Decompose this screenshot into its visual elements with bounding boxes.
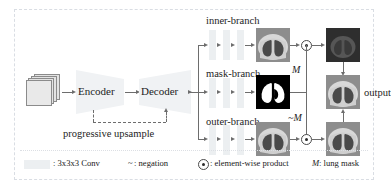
upsample-dash-left: [93, 110, 94, 122]
product-top-out-line: [312, 45, 321, 46]
upsample-dash-bottom: [93, 122, 166, 123]
outer-bus-head: [204, 137, 208, 141]
inner-arrow-3: [251, 43, 255, 47]
product-bottom-out-head: [321, 137, 325, 141]
inner-bus-head: [204, 43, 208, 47]
outer-arrow-2: [231, 137, 235, 141]
arrow-encoder-to-decoder-line: [125, 92, 136, 93]
progressive-upsample-label: progressive upsample: [63, 129, 154, 140]
conv-block-swatch: [24, 160, 50, 169]
input-volume-stack: [26, 74, 62, 108]
upsample-arrow-head: [164, 108, 168, 112]
outer-arrow-3: [251, 137, 255, 141]
inner-branch-ct-tile: [256, 28, 290, 62]
decoder-out-head: [188, 90, 192, 94]
legend-product-text: : element-wise product: [210, 157, 289, 169]
fusion-arrow-bottom: [341, 109, 345, 113]
mask-out-rail: [290, 92, 307, 93]
mask-conv-block-1: [209, 78, 216, 108]
elementwise-product-bottom: [301, 134, 312, 145]
mask-arrow-1: [217, 90, 221, 94]
inner-conv-block-3: [237, 30, 244, 60]
inner-branch-label: inner-branch: [206, 16, 259, 27]
outer-to-product-head: [296, 137, 300, 141]
mask-positive-annotation: M: [292, 65, 300, 75]
mask-bus-head: [204, 90, 208, 94]
mask-arrow-3: [251, 90, 255, 94]
decoder-label: Decoder: [141, 86, 178, 97]
inner-arrow-1: [217, 43, 221, 47]
inner-to-product-head: [296, 43, 300, 47]
product-top-out-head: [321, 43, 325, 47]
legend-negation-text: : negation: [134, 157, 168, 169]
mask-arrow-2: [231, 90, 235, 94]
inner-masked-result-tile: [326, 28, 360, 62]
legend: : 3x3x3 Conv ~ : negation : element-wise…: [24, 157, 369, 172]
legend-product-icon: [198, 159, 209, 170]
mask-conv-block-2: [223, 78, 230, 108]
outer-arrow-1: [217, 137, 221, 141]
diagram-frame: [14, 9, 374, 180]
mask-negated-annotation: ~M: [288, 113, 302, 123]
inner-conv-block-1: [209, 30, 216, 60]
output-label: output: [364, 88, 391, 99]
legend-negation-symbol: ~: [128, 157, 133, 169]
encoder-label: Encoder: [78, 86, 115, 97]
mask-conv-block-3: [237, 78, 244, 108]
upsample-dash-right: [166, 112, 167, 122]
legend-mask-text: : lung mask: [319, 157, 359, 169]
inner-conv-block-2: [223, 30, 230, 60]
mask-branch-binary-mask-tile: [256, 75, 290, 109]
legend-separator: [20, 150, 368, 151]
output-tile: [326, 75, 360, 109]
inner-arrow-2: [231, 43, 235, 47]
legend-conv-text: : 3x3x3 Conv: [53, 157, 100, 169]
arrow-input-to-encoder-line: [62, 92, 72, 93]
fusion-line-bottom: [343, 112, 344, 122]
product-bottom-out-line: [312, 139, 321, 140]
mask-vertical-rail: [306, 45, 307, 139]
